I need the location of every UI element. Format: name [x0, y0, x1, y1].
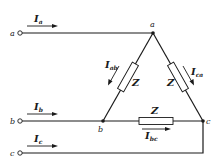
node-label-a: a — [150, 20, 155, 29]
terminal-label-b: b — [10, 117, 15, 126]
arrowhead-ib — [52, 112, 58, 116]
arrowhead-iab — [108, 79, 113, 86]
terminal-label-a: a — [10, 29, 15, 38]
arrowhead-ic — [52, 144, 58, 148]
arrowhead-ibc — [165, 127, 171, 131]
current-label-ic: Ic — [33, 133, 43, 145]
impedance-bc — [139, 118, 173, 125]
branch-ab: Z Iab — [103, 33, 153, 121]
current-label-iab: Iab — [104, 59, 118, 71]
current-label-ia: Ia — [33, 13, 43, 25]
branch-bc: Z Ibc — [103, 105, 203, 142]
terminal-a — [18, 31, 22, 35]
node-a — [151, 31, 155, 35]
delta-circuit-diagram: a Ia b Ib c Ic Z Iab Z — [0, 0, 213, 163]
line-b: b Ib — [10, 101, 103, 126]
line-a: a Ia — [10, 13, 153, 38]
terminal-c — [18, 151, 22, 155]
terminal-label-c: c — [10, 149, 15, 158]
line-c: c Ic — [10, 121, 203, 158]
impedance-label-ab: Z — [131, 77, 140, 88]
impedance-label-bc: Z — [150, 105, 159, 116]
current-label-ibc: Ibc — [144, 130, 158, 142]
node-label-b: b — [98, 125, 103, 134]
arrowhead-ica — [190, 79, 195, 86]
impedance-label-ca: Z — [166, 77, 175, 88]
branch-ca: Z Ica — [153, 33, 203, 121]
terminal-b — [18, 119, 22, 123]
current-label-ica: Ica — [190, 66, 203, 78]
current-label-ib: Ib — [33, 101, 43, 113]
arrowhead-ia — [52, 24, 58, 28]
node-label-c: c — [206, 117, 211, 126]
node-c — [201, 119, 205, 123]
node-b — [101, 119, 105, 123]
